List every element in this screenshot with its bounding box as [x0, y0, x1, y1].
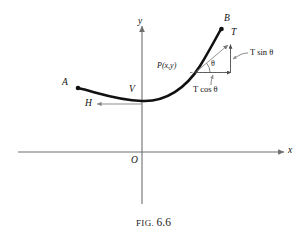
figure-container: y x O A B V P(x,y) H T θ T sin θ T cos θ…	[0, 0, 307, 244]
caption-number: 6.6	[157, 216, 171, 228]
theta-angle-arc	[207, 63, 210, 72]
caption-prefix: FIG.	[136, 218, 154, 228]
point-p-marker	[195, 71, 197, 73]
axis-label-y: y	[138, 17, 142, 27]
force-label-t-cos-theta: T cos θ	[193, 85, 218, 94]
angle-label-theta: θ	[211, 60, 215, 68]
force-label-t: T	[231, 28, 236, 38]
point-label-p: P(x,y)	[157, 62, 176, 70]
force-label-h: H	[85, 99, 92, 109]
catenary-diagram	[0, 0, 307, 244]
point-b-dot	[219, 27, 224, 32]
figure-caption: FIG. 6.6	[0, 212, 307, 230]
point-label-b: B	[224, 14, 230, 24]
t-sin-leader-line	[233, 53, 248, 59]
point-label-v: V	[129, 85, 135, 95]
axis-label-origin: O	[131, 156, 138, 166]
point-label-a: A	[62, 78, 68, 88]
point-a-dot	[76, 86, 81, 91]
force-label-t-sin-theta: T sin θ	[250, 48, 273, 57]
axis-label-x: x	[288, 146, 292, 156]
